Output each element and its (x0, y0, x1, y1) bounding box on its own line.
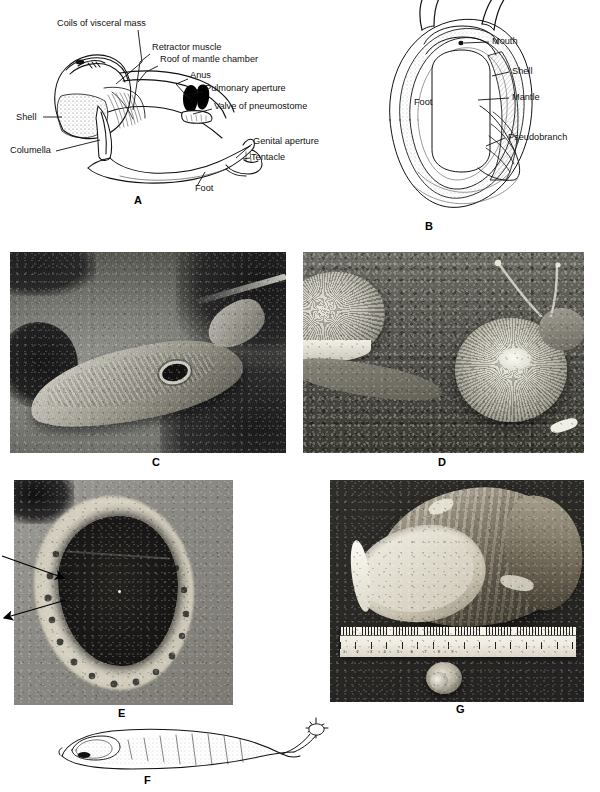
panel-f-drawing (40, 714, 340, 776)
panel-c-photograph (10, 252, 286, 453)
label-coils-of-visceral-mass: Coils of visceral mass (57, 18, 146, 28)
label-retractor-muscle: Retractor muscle (152, 42, 221, 52)
panel-b-leaders (330, 0, 600, 235)
label-genital-aperture: Genital aperture (253, 136, 319, 146)
panel-letter-e: E (118, 707, 125, 719)
panel-letter-c: C (152, 456, 160, 468)
label-shell-b: Shell (512, 66, 532, 76)
arrow-lower (4, 600, 66, 618)
label-mantle: Mantle (512, 92, 540, 102)
panel-letter-d: D (438, 456, 446, 468)
label-foot-b: Foot (414, 97, 432, 107)
panel-e-arrows (0, 530, 120, 640)
label-shell-a: Shell (16, 112, 36, 122)
photo-grain-d (303, 252, 584, 453)
panel-letter-b: B (425, 220, 433, 232)
panel-letter-a: A (134, 194, 142, 206)
label-anus: Anus (190, 70, 211, 80)
panel-b: Mouth Shell Mantle Foot Pseudobranch (330, 0, 600, 235)
panel-a: Coils of visceral mass Retractor muscle … (0, 0, 330, 215)
photo-grain-g (330, 480, 584, 702)
label-tentacle: Tentacle (251, 152, 285, 162)
arrow-upper (2, 556, 64, 578)
panel-letter-g: G (456, 703, 465, 715)
figure-plate: Coils of visceral mass Retractor muscle … (0, 0, 600, 792)
label-roof-of-mantle-chamber: Roof of mantle chamber (160, 54, 258, 64)
label-valve-of-pneumostome: Valve of pneumostome (214, 101, 307, 111)
label-pseudobranch: Pseudobranch (508, 132, 567, 142)
panel-letter-f: F (144, 774, 151, 786)
label-pulmonary-aperture: Pulmonary aperture (205, 83, 286, 93)
label-mouth: Mouth (492, 36, 518, 46)
photo-scanlines-c (10, 252, 286, 453)
panel-f (40, 714, 340, 776)
panel-g-photograph: 123456789 (330, 480, 584, 702)
label-foot-a: Foot (195, 183, 213, 193)
label-columella: Columella (10, 145, 51, 155)
panel-d-photograph (303, 252, 584, 453)
